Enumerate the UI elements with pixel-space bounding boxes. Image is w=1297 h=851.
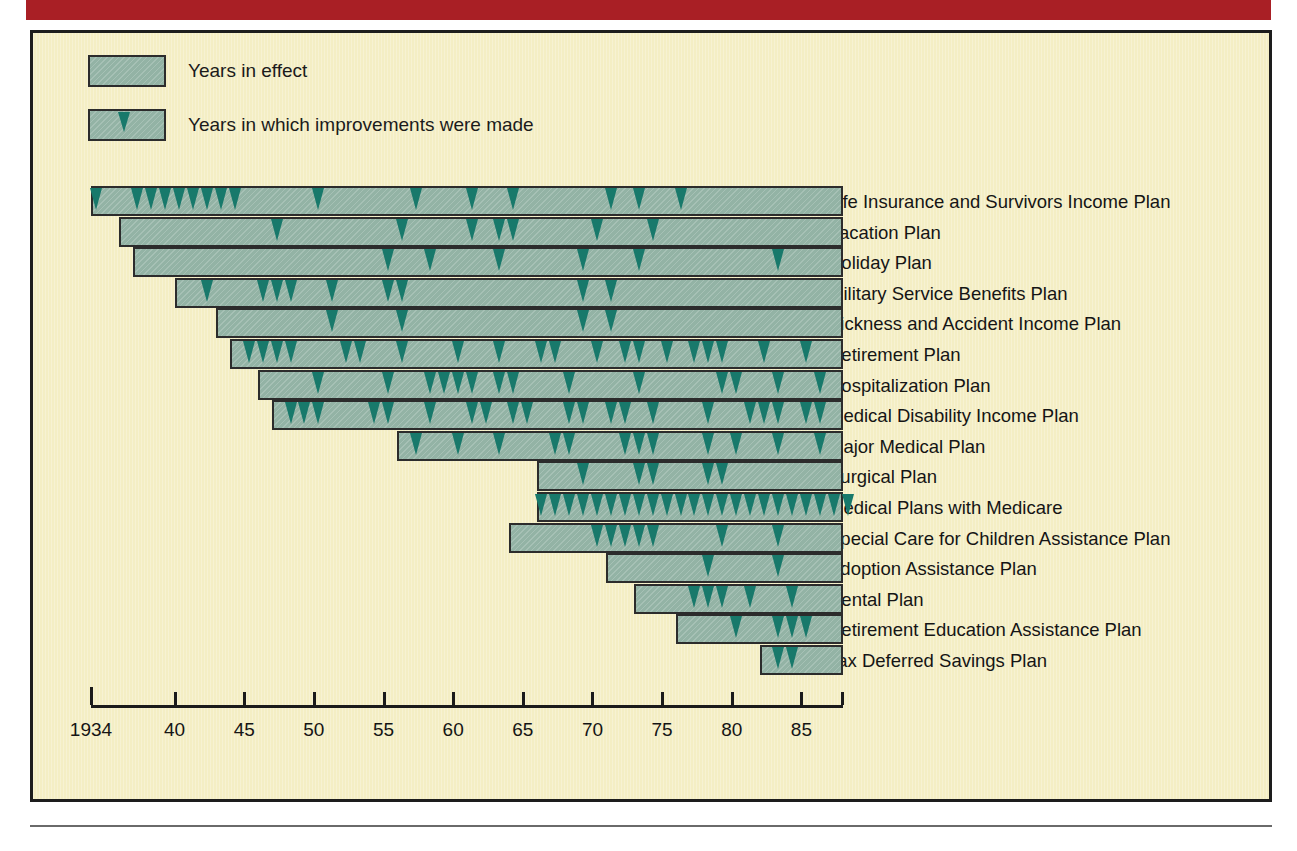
improvement-arrow-icon xyxy=(786,586,798,608)
improvement-arrow-icon xyxy=(661,341,673,363)
x-axis-tick xyxy=(522,692,525,705)
improvement-arrow-icon xyxy=(159,188,171,210)
improvement-arrow-icon xyxy=(675,494,687,516)
improvement-arrow-icon xyxy=(605,188,617,210)
improvement-arrow-icon xyxy=(591,525,603,547)
improvement-arrow-icon xyxy=(633,188,645,210)
x-axis-tick-label: 40 xyxy=(164,719,185,741)
improvement-arrow-icon xyxy=(326,310,338,332)
improvement-arrow-icon xyxy=(507,188,519,210)
improvement-arrow-icon xyxy=(744,586,756,608)
bar-category-label: Surgical Plan xyxy=(828,466,937,488)
timeline-bar xyxy=(272,400,843,430)
improvement-arrow-icon xyxy=(215,188,227,210)
bar-category-label: Retirement Education Assistance Plan xyxy=(828,619,1142,641)
improvement-arrow-icon xyxy=(466,372,478,394)
improvement-arrow-icon xyxy=(716,525,728,547)
improvement-arrow-icon xyxy=(702,341,714,363)
improvement-arrow-icon xyxy=(758,494,770,516)
improvement-arrow-icon xyxy=(702,463,714,485)
improvement-arrow-icon xyxy=(772,372,784,394)
improvement-arrow-icon xyxy=(285,280,297,302)
x-axis-tick xyxy=(731,692,734,705)
improvement-arrow-icon xyxy=(285,402,297,424)
improvement-arrow-icon xyxy=(814,372,826,394)
improvement-arrow-icon xyxy=(800,341,812,363)
improvement-arrow-icon xyxy=(772,647,784,669)
improvement-arrow-icon xyxy=(702,494,714,516)
improvement-arrow-icon xyxy=(702,586,714,608)
bar-category-label: Holiday Plan xyxy=(828,252,932,274)
x-axis-tick xyxy=(243,692,246,705)
timeline-bar xyxy=(230,339,843,369)
bar-category-label: Life Insurance and Survivors Income Plan xyxy=(828,191,1170,213)
improvement-arrow-icon xyxy=(549,433,561,455)
improvement-arrow-icon xyxy=(633,433,645,455)
improvement-arrow-icon xyxy=(271,219,283,241)
improvement-arrow-icon xyxy=(354,341,366,363)
improvement-arrow-icon xyxy=(730,372,742,394)
improvement-arrow-icon xyxy=(647,525,659,547)
improvement-arrow-icon xyxy=(605,280,617,302)
improvement-arrow-icon xyxy=(716,463,728,485)
improvement-arrow-icon xyxy=(535,494,547,516)
improvement-arrow-icon xyxy=(633,463,645,485)
improvement-arrow-icon xyxy=(521,402,533,424)
improvement-arrow-icon xyxy=(424,249,436,271)
improvement-arrow-icon xyxy=(577,249,589,271)
improvement-arrow-icon xyxy=(786,647,798,669)
improvement-arrow-icon xyxy=(716,494,728,516)
improvement-arrow-icon xyxy=(326,280,338,302)
improvement-arrow-icon xyxy=(633,372,645,394)
improvement-arrow-icon xyxy=(340,341,352,363)
improvement-arrow-icon xyxy=(452,341,464,363)
improvement-arrow-icon xyxy=(591,341,603,363)
improvement-arrow-icon xyxy=(772,402,784,424)
improvement-arrow-icon xyxy=(633,249,645,271)
improvement-arrow-icon xyxy=(410,433,422,455)
improvement-arrow-icon xyxy=(549,494,561,516)
improvement-arrow-icon xyxy=(772,494,784,516)
chart-plot-area: Life Insurance and Survivors Income Plan… xyxy=(33,33,1269,799)
improvement-arrow-icon xyxy=(549,341,561,363)
x-axis-tick-label: 85 xyxy=(791,719,812,741)
x-axis-tick xyxy=(800,692,803,705)
improvement-arrow-icon xyxy=(563,494,575,516)
improvement-arrow-icon xyxy=(480,402,492,424)
timeline-bar xyxy=(216,308,843,338)
improvement-arrow-icon xyxy=(591,219,603,241)
improvement-arrow-icon xyxy=(535,341,547,363)
timeline-bar xyxy=(537,492,843,522)
improvement-arrow-icon xyxy=(577,463,589,485)
improvement-arrow-icon xyxy=(716,586,728,608)
improvement-arrow-icon xyxy=(257,341,269,363)
figure-container: Years in effect Years in which improveme… xyxy=(30,30,1272,802)
improvement-arrow-icon xyxy=(243,341,255,363)
improvement-arrow-icon xyxy=(577,310,589,332)
x-axis-tick-label: 1934 xyxy=(70,719,112,741)
x-axis-tick xyxy=(661,692,664,705)
improvement-arrow-icon xyxy=(312,402,324,424)
improvement-arrow-icon xyxy=(312,188,324,210)
improvement-arrow-icon xyxy=(605,494,617,516)
improvement-arrow-icon xyxy=(493,249,505,271)
bar-category-label: Sickness and Accident Income Plan xyxy=(828,313,1121,335)
improvement-arrow-icon xyxy=(145,188,157,210)
improvement-arrow-icon xyxy=(466,219,478,241)
timeline-bar xyxy=(676,614,843,644)
improvement-arrow-icon xyxy=(605,525,617,547)
improvement-arrow-icon xyxy=(814,402,826,424)
improvement-arrow-icon xyxy=(507,372,519,394)
x-axis-end-tick xyxy=(841,692,844,705)
improvement-arrow-icon xyxy=(493,433,505,455)
improvement-arrow-icon xyxy=(563,402,575,424)
improvement-arrow-icon xyxy=(772,525,784,547)
improvement-arrow-icon xyxy=(633,494,645,516)
x-axis-tick xyxy=(383,692,386,705)
x-axis-tick xyxy=(591,692,594,705)
top-red-band xyxy=(26,0,1271,20)
improvement-arrow-icon xyxy=(688,494,700,516)
improvement-arrow-icon xyxy=(452,433,464,455)
improvement-arrow-icon xyxy=(772,616,784,638)
improvement-arrow-icon xyxy=(577,280,589,302)
